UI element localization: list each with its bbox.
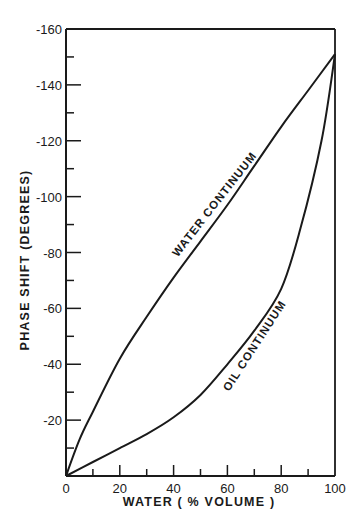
x-tick-label: 0 <box>62 481 69 496</box>
x-tick-label: 100 <box>324 481 346 496</box>
x-tick-label: 40 <box>166 481 180 496</box>
oil-continuum-curve <box>66 54 335 476</box>
y-axis-label: PHASE SHIFT (DEGREES) <box>18 170 32 351</box>
y-tick-label: -60 <box>43 301 62 316</box>
y-axis-ticks: -20-40-60-80-100-120-140-160 <box>36 22 81 448</box>
x-tick-label: 20 <box>113 481 127 496</box>
y-tick-label: -20 <box>43 413 62 428</box>
y-tick-label: -80 <box>43 246 62 261</box>
x-axis-ticks: 020406080100 <box>62 465 345 496</box>
phase-shift-chart: -20-40-60-80-100-120-140-160 02040608010… <box>0 0 363 529</box>
x-tick-label: 60 <box>220 481 234 496</box>
data-curves <box>66 54 335 476</box>
curve-labels: WATER CONTINUUMOIL CONTINUUM <box>170 150 288 394</box>
oil-continuum-label: OIL CONTINUUM <box>221 298 288 393</box>
x-axis-label: WATER ( % VOLUME ) <box>123 495 276 509</box>
y-tick-label: -160 <box>36 22 62 37</box>
y-tick-label: -100 <box>36 190 62 205</box>
y-tick-label: -40 <box>43 357 62 372</box>
x-tick-label: 80 <box>274 481 288 496</box>
y-tick-label: -140 <box>36 78 62 93</box>
water-continuum-label: WATER CONTINUUM <box>170 150 259 259</box>
y-tick-label: -120 <box>36 134 62 149</box>
water-continuum-curve <box>66 54 335 476</box>
